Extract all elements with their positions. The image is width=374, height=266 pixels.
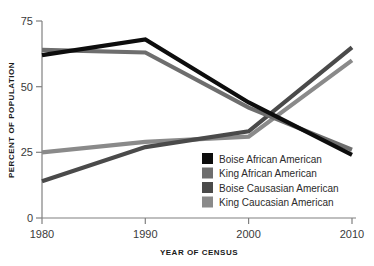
y-tick-label-0: 0	[27, 212, 33, 224]
legend: Boise African American King African Amer…	[202, 153, 339, 208]
chart-canvas: 75 50 25 0 1980 1990 2000 2010 YEAR OF C…	[0, 0, 374, 266]
x-tick-marks	[42, 218, 352, 224]
legend-label-king-caucasian-american: King Caucasian American	[219, 197, 334, 208]
legend-swatch-king-caucasian-american	[202, 197, 213, 208]
x-tick-label-1990: 1990	[133, 228, 157, 240]
y-tick-labels: 75 50 25 0	[21, 15, 33, 224]
legend-label-king-african-american: King African American	[219, 168, 317, 179]
legend-swatch-boise-causasian-american	[202, 182, 213, 193]
y-tick-marks	[36, 21, 42, 218]
x-tick-labels: 1980 1990 2000 2010	[30, 228, 364, 240]
legend-swatch-king-african-american	[202, 168, 213, 179]
line-chart: 75 50 25 0 1980 1990 2000 2010 YEAR OF C…	[0, 0, 374, 266]
y-axis-title: PERCENT OF POPULATION	[7, 62, 16, 178]
y-tick-label-25: 25	[21, 146, 33, 158]
series-line-king-african-american	[42, 50, 352, 150]
x-tick-label-2000: 2000	[236, 228, 260, 240]
x-tick-label-1980: 1980	[30, 228, 54, 240]
x-tick-label-2010: 2010	[340, 228, 364, 240]
legend-swatch-boise-african-american	[202, 153, 213, 164]
legend-label-boise-causasian-american: Boise Causasian American	[219, 183, 339, 194]
y-tick-label-75: 75	[21, 15, 33, 27]
x-axis-title: YEAR OF CENSUS	[160, 248, 238, 257]
legend-label-boise-african-american: Boise African American	[219, 154, 322, 165]
y-tick-label-50: 50	[21, 81, 33, 93]
